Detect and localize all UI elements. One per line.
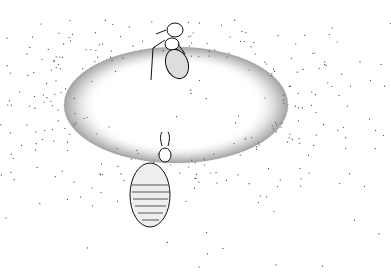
illustration [0,0,391,274]
stipple-drawing [0,0,391,274]
